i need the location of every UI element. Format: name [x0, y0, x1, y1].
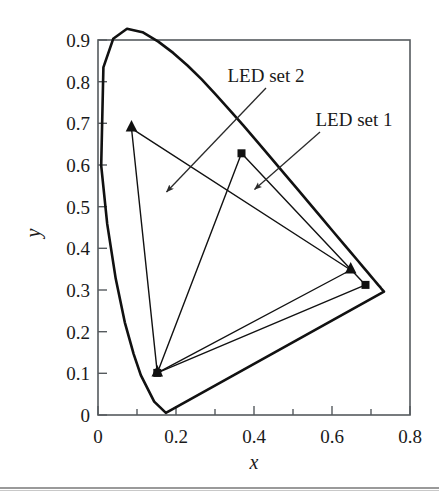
led-set-2-vertex-green-marker [126, 120, 138, 132]
led-set-1-vertex-red-marker [362, 281, 370, 289]
y-tick-label-1: 0.1 [66, 363, 90, 384]
y-tick-label-4: 0.4 [66, 238, 90, 259]
y-tick-label-9: 0.9 [66, 30, 90, 51]
led-set-1-vertex-blue-marker [153, 369, 161, 377]
y-tick-label-5: 0.5 [66, 197, 90, 218]
x-axis-ticks [98, 406, 410, 415]
plot-frame [98, 40, 410, 415]
led-set-2-gamut [132, 128, 351, 373]
y-tick-label-3: 0.3 [66, 280, 90, 301]
x-axis-title: x [249, 451, 259, 473]
bottom-divider-rule-secondary [0, 490, 439, 491]
y-tick-label-7: 0.7 [66, 113, 90, 134]
led-set-1-label: LED set 1 [315, 109, 392, 130]
x-tick-label-4: 0.8 [398, 426, 422, 447]
y-tick-label-0: 0 [81, 405, 91, 426]
x-tick-label-1: 0.2 [164, 426, 188, 447]
led-set-1-vertex-green-marker [238, 149, 246, 157]
chart-svg: 0 0.1 0.2 0.3 0.4 0.5 0.6 0.7 0.8 0.9 0 … [0, 0, 439, 492]
y-tick-label-6: 0.6 [66, 155, 90, 176]
y-tick-label-2: 0.2 [66, 322, 90, 343]
y-axis-title: y [22, 228, 45, 239]
led-set-1-gamut [157, 153, 365, 373]
chromaticity-figure: 0 0.1 0.2 0.3 0.4 0.5 0.6 0.7 0.8 0.9 0 … [0, 0, 439, 492]
bottom-divider-rule [0, 487, 439, 489]
led-set-2-label: LED set 2 [227, 65, 304, 86]
led-set-1-leader-line [255, 132, 321, 190]
led-set-2-leader-line [167, 88, 267, 192]
y-tick-label-8: 0.8 [66, 72, 90, 93]
spectral-locus-curve [101, 29, 384, 413]
x-tick-label-2: 0.4 [242, 426, 266, 447]
x-tick-label-3: 0.6 [320, 426, 344, 447]
x-tick-label-0: 0 [93, 426, 103, 447]
